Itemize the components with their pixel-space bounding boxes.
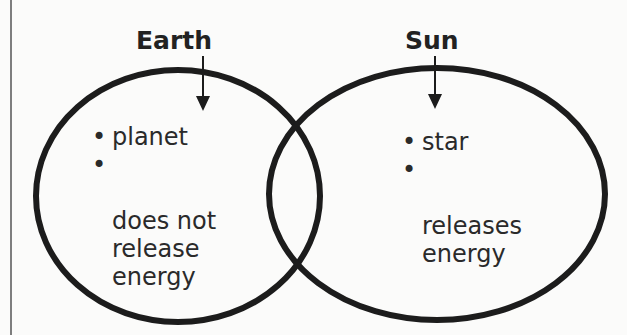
sun-items-list: • star • releases energy [402, 128, 522, 268]
sun-arrowhead-icon [428, 94, 442, 109]
earth-arrow [196, 56, 210, 111]
list-item: • planet [92, 123, 216, 151]
earth-item-planet: planet [112, 123, 188, 151]
earth-items-list: • planet • does not release energy [92, 123, 216, 291]
sun-arrow [428, 56, 442, 109]
list-item: • does not release energy [92, 151, 216, 291]
bullet-icon: • [92, 151, 106, 179]
sun-label: Sun [405, 28, 459, 53]
earth-label: Earth [136, 28, 212, 53]
bullet-icon: • [92, 123, 106, 151]
bullet-icon: • [402, 128, 416, 156]
list-item: • releases energy [402, 156, 522, 268]
bullet-icon: • [402, 156, 416, 184]
earth-item-no-energy: does not release energy [112, 207, 216, 291]
sun-item-releases-energy: releases energy [422, 212, 522, 268]
list-item: • star [402, 128, 522, 156]
earth-arrowhead-icon [196, 96, 210, 111]
sun-item-star: star [422, 128, 469, 156]
